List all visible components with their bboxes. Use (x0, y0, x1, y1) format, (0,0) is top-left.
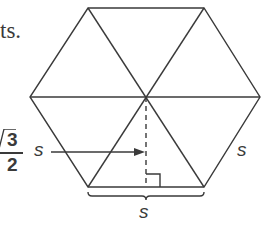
apothem-denominator: 2 (7, 154, 18, 176)
arrow-head-icon (134, 148, 145, 156)
fragment-text: ts. (0, 18, 21, 44)
side-label-right: s (237, 139, 247, 161)
right-angle-marker (146, 174, 160, 187)
apothem-numerator: 3 (7, 129, 18, 151)
side-label-bottom: s (139, 201, 149, 223)
apothem-variable: s (34, 139, 44, 161)
bottom-brace (88, 192, 204, 200)
hexagon-diagram (0, 0, 262, 227)
